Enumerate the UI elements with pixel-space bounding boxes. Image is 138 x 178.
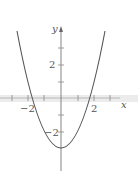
x-axis-label: x	[121, 99, 127, 110]
y-axis-label: y	[51, 23, 58, 34]
y-axis-arrow-icon	[59, 26, 63, 32]
x-tick-label-pos2: 2	[91, 103, 97, 114]
x-tick-label-neg2: −2	[20, 103, 35, 114]
y-tick-label-pos2: 2	[49, 59, 55, 70]
y-tick-label-neg2: −2	[44, 127, 59, 138]
parabola-chart: y x −2 2 2 −2	[0, 0, 138, 178]
